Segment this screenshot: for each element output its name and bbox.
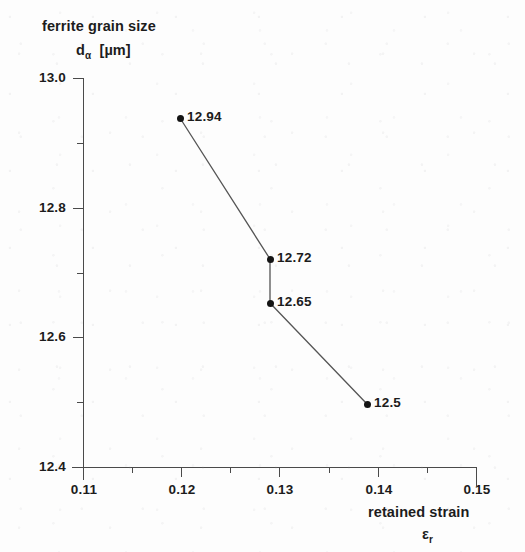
x-axis-title-line1: retained strain [368,504,469,520]
x-tick-0-11 [83,458,84,477]
x-tick-label-0-12: 0.12 [143,482,221,497]
x-tick-0-13 [279,467,280,477]
x-tick-minor-0-135 [329,467,330,473]
data-point-label: 12.5 [374,395,401,410]
y-tick-minor-12-7 [77,273,83,274]
y-tick-12-6 [73,337,83,338]
data-point [267,300,274,307]
y-axis-title-line1: ferrite grain size [42,18,156,34]
x-axis-title-line2: εr [422,526,433,545]
data-point-label: 12.72 [277,250,312,265]
data-point-label: 12.65 [277,294,312,309]
data-series-line [0,0,525,552]
y-tick-12-4 [73,467,83,468]
y-axis-subscript-alpha: α [85,50,91,61]
y-tick-label-12-6: 12.6 [0,329,66,344]
paper-texture-overlay [0,0,525,552]
y-tick-label-12-4: 12.4 [0,459,66,474]
y-axis-line [83,78,84,480]
x-tick-0-14 [378,467,379,477]
x-tick-label-0-15: 0.15 [438,482,516,497]
data-point [267,256,274,263]
data-point-label: 12.94 [187,109,222,124]
data-point [177,115,184,122]
x-axis-symbol-epsilon: ε [422,526,429,542]
y-tick-minor-12-5 [77,402,83,403]
data-point [364,401,371,408]
y-tick-label-12-8: 12.8 [0,200,66,215]
y-tick-label-13-0: 13.0 [0,70,66,85]
x-tick-label-0-13: 0.13 [241,482,319,497]
x-tick-label-0-14: 0.14 [340,482,418,497]
y-axis-symbol-d: d [76,42,85,58]
x-tick-minor-0-145 [427,467,428,473]
x-tick-minor-0-125 [230,467,231,473]
y-tick-minor-12-9 [77,143,83,144]
y-axis-title-line2: dα [µm] [76,42,131,61]
x-tick-label-0-11: 0.11 [45,482,123,497]
chart-figure: ferrite grain size dα [µm] 13.0 12.8 12.… [0,0,525,552]
y-axis-unit: [µm] [99,42,130,58]
y-tick-12-8 [73,208,83,209]
x-tick-0-12 [181,467,182,477]
x-axis-subscript-r: r [429,534,433,545]
y-tick-13-0 [73,78,83,79]
x-tick-minor-0-115 [132,467,133,473]
